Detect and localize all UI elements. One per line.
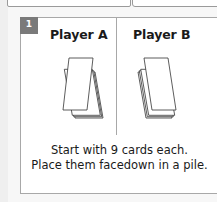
card-pile-icon (132, 56, 190, 126)
instruction-line-1: Start with 9 cards each. (21, 143, 217, 158)
step-card: 1 Player A Player B Start with 9 cards e (20, 17, 217, 194)
player-b-label: Player B (133, 27, 190, 42)
previous-panel-left (7, 0, 131, 7)
step-instructions: Start with 9 cards each. Place them face… (21, 143, 217, 173)
column-divider (116, 18, 117, 135)
card-pile-icon (47, 56, 105, 126)
instruction-line-2: Place them facedown in a pile. (21, 158, 217, 173)
player-a-label: Player A (50, 27, 108, 42)
previous-panel-right (132, 0, 217, 7)
page-margin (0, 0, 8, 202)
step-number-badge: 1 (20, 17, 38, 34)
